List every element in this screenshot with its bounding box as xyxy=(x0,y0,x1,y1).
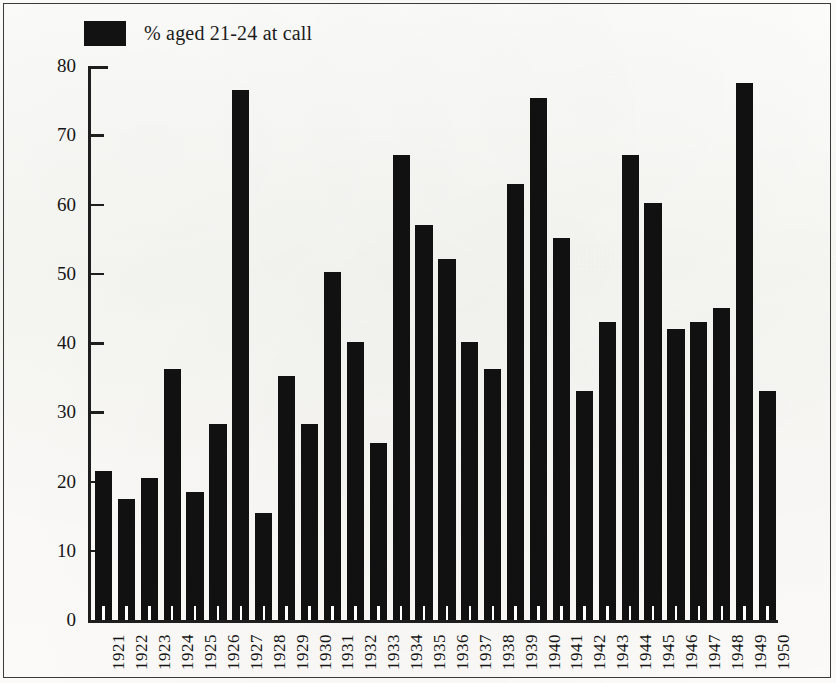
bar-foot-notch xyxy=(148,606,151,620)
chart-legend: % aged 21-24 at call xyxy=(84,18,312,48)
bar-foot-notch xyxy=(285,606,288,620)
x-axis-tick-label: 1933 xyxy=(384,634,404,670)
chart-page: % aged 21-24 at call 01020304050607080 1… xyxy=(0,0,836,683)
x-axis-tick-label: 1941 xyxy=(567,634,587,670)
x-axis-tick-label: 1949 xyxy=(751,634,771,670)
bar-foot-notch xyxy=(400,606,403,620)
bar-foot-notch xyxy=(560,606,563,620)
x-axis-tick-label: 1925 xyxy=(201,634,221,670)
bar xyxy=(209,424,226,620)
bar xyxy=(759,391,776,620)
bar-foot-notch xyxy=(606,606,609,620)
x-axis-tick-label: 1931 xyxy=(338,634,358,670)
y-axis-tick-label: 80 xyxy=(57,55,76,77)
bar-foot-notch xyxy=(377,606,380,620)
bar-foot-notch xyxy=(469,606,472,620)
bar xyxy=(186,492,203,620)
bar xyxy=(438,259,455,620)
bar-foot-notch xyxy=(171,606,174,620)
bar-foot-notch xyxy=(263,606,266,620)
bar xyxy=(667,329,684,620)
bar-foot-notch xyxy=(331,606,334,620)
bar xyxy=(530,98,547,620)
bar xyxy=(622,155,639,620)
x-axis-tick-label: 1932 xyxy=(361,634,381,670)
x-axis-tick-label: 1935 xyxy=(430,634,450,670)
x-axis-tick-label: 1923 xyxy=(155,634,175,670)
x-axis-tick-label: 1945 xyxy=(659,634,679,670)
y-axis-tick-label: 20 xyxy=(57,470,76,492)
bar xyxy=(393,155,410,620)
y-axis-tick-label: 50 xyxy=(57,262,76,284)
bar xyxy=(599,322,616,620)
x-axis-tick-label: 1939 xyxy=(522,634,542,670)
bar-foot-notch xyxy=(102,606,105,620)
bar-foot-notch xyxy=(308,606,311,620)
x-axis-tick-label: 1948 xyxy=(728,634,748,670)
y-axis-tick-label: 30 xyxy=(57,401,76,423)
y-axis-tick-label: 40 xyxy=(57,332,76,354)
x-axis-tick-label: 1938 xyxy=(499,634,519,670)
bar xyxy=(484,369,501,620)
bar xyxy=(736,83,753,620)
bar-foot-notch xyxy=(698,606,701,620)
x-axis-tick-label: 1927 xyxy=(247,634,267,670)
x-axis-tick-label: 1937 xyxy=(476,634,496,670)
bar xyxy=(118,499,135,620)
bar-foot-notch xyxy=(652,606,655,620)
bar-foot-notch xyxy=(629,606,632,620)
bar xyxy=(461,342,478,620)
bar-foot-notch xyxy=(423,606,426,620)
bar xyxy=(255,513,272,620)
bar-foot-notch xyxy=(492,606,495,620)
bar-foot-notch xyxy=(766,606,769,620)
legend-swatch-icon xyxy=(84,21,126,46)
bar-foot-notch xyxy=(514,606,517,620)
bar xyxy=(278,376,295,620)
x-axis-tick-label: 1947 xyxy=(705,634,725,670)
x-axis-tick-label: 1922 xyxy=(132,634,152,670)
x-axis-tick-label: 1936 xyxy=(453,634,473,670)
bar-foot-notch xyxy=(537,606,540,620)
bar-foot-notch xyxy=(240,606,243,620)
x-axis-tick-label: 1929 xyxy=(293,634,313,670)
bar-foot-notch xyxy=(446,606,449,620)
bar-foot-notch xyxy=(217,606,220,620)
x-axis-tick-label: 1946 xyxy=(682,634,702,670)
bar xyxy=(576,391,593,620)
x-axis-tick-label: 1942 xyxy=(590,634,610,670)
y-axis-tick-label: 0 xyxy=(67,609,77,631)
bar-foot-notch xyxy=(583,606,586,620)
bar-foot-notch xyxy=(354,606,357,620)
legend-label: % aged 21-24 at call xyxy=(144,22,312,45)
x-axis-tick-label: 1944 xyxy=(636,634,656,670)
bar-foot-notch xyxy=(721,606,724,620)
x-axis-tick-label: 1921 xyxy=(109,634,129,670)
x-axis-tick-label: 1950 xyxy=(774,634,794,670)
bar xyxy=(507,184,524,620)
bar xyxy=(370,443,387,620)
bar xyxy=(553,238,570,620)
bar-foot-notch xyxy=(743,606,746,620)
bar xyxy=(95,471,112,620)
bar xyxy=(164,369,181,620)
x-axis-tick-label: 1930 xyxy=(316,634,336,670)
y-axis-tick-label: 70 xyxy=(57,124,76,146)
x-axis-tick-label: 1934 xyxy=(407,634,427,670)
x-axis-labels: 1921192219231924192519261927192819291930… xyxy=(91,620,781,680)
x-axis-tick-label: 1928 xyxy=(270,634,290,670)
bar xyxy=(232,90,249,620)
bar xyxy=(347,342,364,620)
x-axis-tick-label: 1924 xyxy=(178,634,198,670)
bar xyxy=(141,478,158,620)
bar xyxy=(690,322,707,620)
bar xyxy=(713,308,730,620)
bar-foot-notch xyxy=(675,606,678,620)
y-axis-tick-label: 10 xyxy=(57,539,76,561)
bar xyxy=(644,203,661,620)
bar xyxy=(415,225,432,620)
y-axis-tick-label: 60 xyxy=(57,193,76,215)
bar-foot-notch xyxy=(194,606,197,620)
x-axis-tick-label: 1926 xyxy=(224,634,244,670)
bar xyxy=(324,272,341,620)
